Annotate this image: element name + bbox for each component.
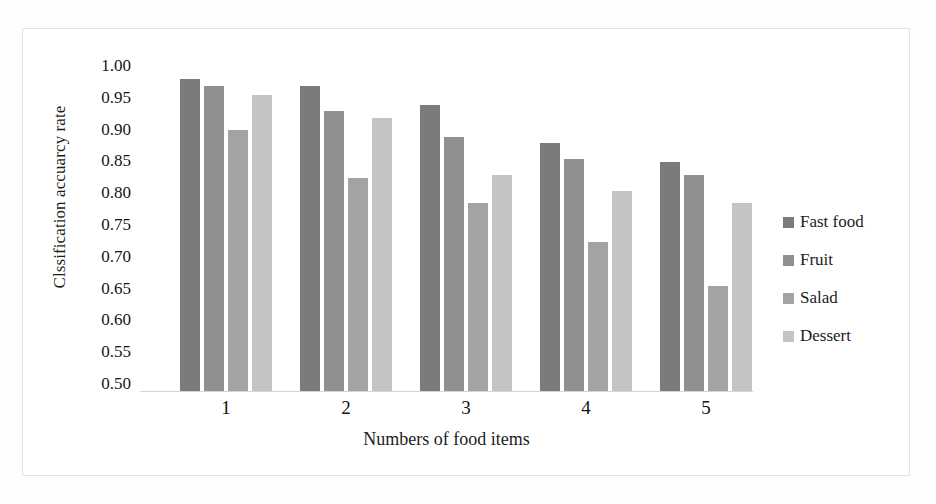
y-axis-tick-label: 0.65 (79, 280, 131, 297)
bar-group (540, 65, 636, 391)
y-axis-tick-label: 0.60 (79, 311, 131, 328)
legend-item[interactable]: Salad (783, 279, 923, 317)
bar (540, 143, 560, 391)
bar (204, 86, 224, 391)
legend-item[interactable]: Fast food (783, 203, 923, 241)
y-axis-tick-label: 0.75 (79, 216, 131, 233)
y-axis-tick-label: 0.95 (79, 89, 131, 106)
legend-label: Salad (800, 288, 838, 308)
x-axis-line (140, 391, 753, 392)
chart-legend: Fast foodFruitSaladDessert (783, 203, 923, 355)
x-axis-title: Numbers of food items (140, 429, 753, 450)
y-axis-tick-label: 0.50 (79, 375, 131, 392)
legend-label: Fruit (800, 250, 833, 270)
chart-frame: Clssification accuarcy rate 1.000.950.90… (22, 28, 910, 476)
x-axis-tick-label: 5 (676, 397, 736, 419)
bar (684, 175, 704, 391)
bar-group (420, 65, 516, 391)
y-axis-tick-label: 0.90 (79, 121, 131, 138)
y-axis-tick-label: 0.80 (79, 184, 131, 201)
legend-swatch-icon (783, 293, 794, 304)
bar (228, 130, 248, 391)
y-axis-tick-labels: 1.000.950.900.850.800.750.700.650.600.55… (79, 57, 131, 387)
bar (612, 191, 632, 391)
bar-group (660, 65, 756, 391)
bar (444, 137, 464, 391)
y-axis-tick-label: 1.00 (79, 57, 131, 74)
plot-area (140, 65, 753, 392)
bar (708, 286, 728, 391)
bar (300, 86, 320, 391)
bar-chart-figure: Clssification accuarcy rate 1.000.950.90… (0, 0, 936, 504)
bar (252, 95, 272, 391)
legend-label: Fast food (800, 212, 864, 232)
bar (420, 105, 440, 391)
bar-group (300, 65, 396, 391)
y-axis-tick-label: 0.55 (79, 343, 131, 360)
bar (372, 118, 392, 391)
bar (348, 178, 368, 391)
bar (468, 203, 488, 391)
legend-swatch-icon (783, 255, 794, 266)
x-axis-tick-label: 1 (196, 397, 256, 419)
x-axis-tick-label: 4 (556, 397, 616, 419)
bar (732, 203, 752, 391)
legend-swatch-icon (783, 217, 794, 228)
y-axis-tick-label: 0.85 (79, 152, 131, 169)
x-axis-tick-label: 3 (436, 397, 496, 419)
bar-group (180, 65, 276, 391)
legend-item[interactable]: Dessert (783, 317, 923, 355)
bar (660, 162, 680, 391)
x-axis-tick-labels: 12345 (140, 397, 753, 423)
y-axis-title: Clssification accuarcy rate (50, 67, 70, 327)
x-axis-tick-label: 2 (316, 397, 376, 419)
bar (588, 242, 608, 391)
bar (564, 159, 584, 391)
bar (492, 175, 512, 391)
y-axis-tick-label: 0.70 (79, 248, 131, 265)
bar (324, 111, 344, 391)
legend-swatch-icon (783, 331, 794, 342)
legend-label: Dessert (800, 326, 851, 346)
bar (180, 79, 200, 391)
legend-item[interactable]: Fruit (783, 241, 923, 279)
